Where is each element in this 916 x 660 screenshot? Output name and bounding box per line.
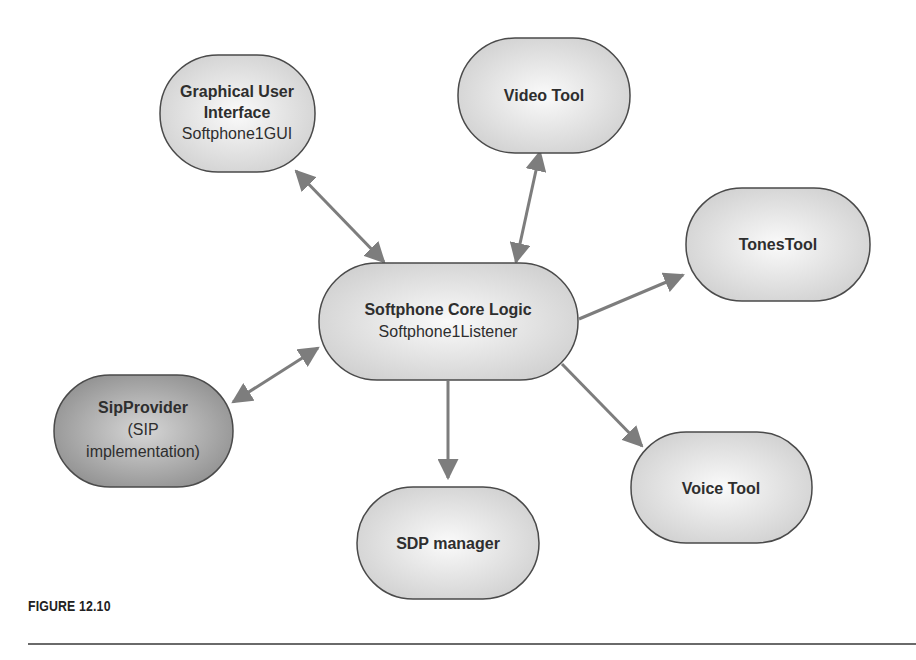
node-core-subtitle: Softphone1Listener (379, 323, 518, 340)
node-gui-title-1: Graphical User (180, 83, 294, 100)
node-tones-title: TonesTool (739, 236, 818, 253)
node-gui-title-2: Interface (204, 104, 271, 121)
node-sip: SipProvider (SIP implementation) (54, 375, 233, 487)
node-core: Softphone Core Logic Softphone1Listener (319, 263, 578, 380)
node-core-title: Softphone Core Logic (364, 301, 531, 318)
node-sip-title: SipProvider (98, 399, 188, 416)
node-sdp-title: SDP manager (396, 535, 500, 552)
node-voice-title: Voice Tool (682, 480, 761, 497)
node-gui-subtitle: Softphone1GUI (182, 125, 292, 142)
node-video-title: Video Tool (504, 87, 584, 104)
figure-caption: FIGURE 12.10 (28, 597, 111, 614)
node-tones: TonesTool (686, 188, 870, 301)
node-voice: Voice Tool (631, 432, 812, 543)
edge-video-core (516, 152, 540, 262)
edge-core-voice (562, 364, 642, 446)
edge-gui-core (296, 171, 384, 262)
node-gui: Graphical User Interface Softphone1GUI (160, 55, 315, 172)
edge-core-tones (579, 275, 683, 319)
node-sip-subtitle-2: implementation) (86, 443, 200, 460)
node-video: Video Tool (458, 38, 630, 153)
architecture-diagram: Graphical User Interface Softphone1GUI V… (0, 0, 916, 660)
node-sdp: SDP manager (357, 487, 539, 599)
edge-sip-core (233, 348, 318, 402)
node-sip-subtitle-1: (SIP (127, 421, 158, 438)
caption-divider (28, 643, 916, 645)
